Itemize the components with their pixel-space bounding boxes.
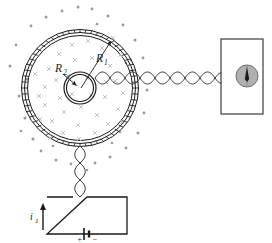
battery-negative-label: − <box>92 235 97 243</box>
battery-positive-label: + <box>77 235 82 243</box>
figure-canvas: R 1 R 2 + − i 1 <box>0 0 272 243</box>
label-r1-subscript: 1 <box>104 58 108 67</box>
label-r2-text: R <box>54 62 62 74</box>
label-r2-subscript: 2 <box>63 68 67 77</box>
background <box>0 0 272 243</box>
label-current-subscript: 1 <box>35 217 39 225</box>
label-r1-text: R <box>95 52 103 64</box>
label-current: i <box>30 211 33 222</box>
physics-diagram: R 1 R 2 + − i 1 <box>0 0 272 243</box>
